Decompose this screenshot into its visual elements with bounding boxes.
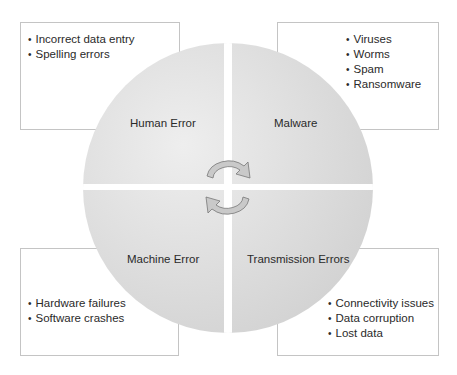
malware-label: Malware [274,117,317,129]
transmission-errors-label: Transmission Errors [247,253,349,265]
quadrant-circle [0,0,457,375]
horizontal-divider [80,184,376,190]
machine-error-label: Machine Error [127,253,199,265]
human-error-label: Human Error [130,117,196,129]
